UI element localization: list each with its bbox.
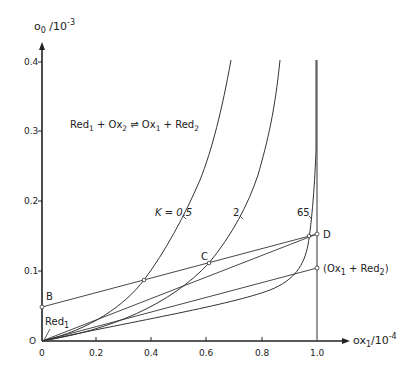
red1-label: Red1 xyxy=(45,316,69,330)
y-ticks: 0.1 0.2 0.3 0.4 O xyxy=(24,57,42,346)
reaction-equation: Red1 + Ox2 ⇌ Ox1 + Red2 xyxy=(70,119,199,133)
y-tick-label: 0.3 xyxy=(24,126,38,136)
curves xyxy=(42,60,316,341)
line-b-d xyxy=(42,234,317,307)
line-o-ox1red2 xyxy=(42,268,317,341)
point-ox1red2-label: (Ox1 + Red2) xyxy=(323,263,389,277)
y-tick-label: 0.1 xyxy=(24,266,38,276)
x-axis-title: ox1/10-4 xyxy=(353,332,397,349)
point-k05-marker xyxy=(142,278,146,282)
point-b-marker xyxy=(40,305,44,309)
point-d-marker xyxy=(315,232,319,236)
point-c-label: C xyxy=(201,251,208,262)
x-tick-label: 0.4 xyxy=(144,348,159,358)
origin-label: O xyxy=(29,336,36,346)
x-axis-arrow-icon xyxy=(342,338,350,344)
point-ox1red2-marker xyxy=(315,266,319,270)
y-axis-title: o0 /10-3 xyxy=(34,18,75,35)
point-b-label: B xyxy=(46,291,53,302)
x-tick-label: 0.6 xyxy=(199,348,214,358)
curve-label-k2: 2 xyxy=(233,207,239,218)
curve-k-2 xyxy=(42,60,280,341)
y-axis-arrow-icon xyxy=(39,42,45,50)
curve-k-0.5 xyxy=(42,60,231,341)
y-tick-label: 0.4 xyxy=(24,57,39,67)
x-tick-label: 1.0 xyxy=(310,348,325,358)
titration-diagram: 0.1 0.2 0.3 0.4 O 0 0.2 0.4 0.6 0.8 1.0 … xyxy=(0,0,410,373)
x-tick-label: 0 xyxy=(39,348,45,358)
curve-label-k65: 65 xyxy=(297,207,310,218)
point-d-label: D xyxy=(323,229,331,240)
point-k65-marker xyxy=(307,234,311,238)
x-tick-label: 0.2 xyxy=(89,348,103,358)
x-tick-label: 0.8 xyxy=(255,348,270,358)
curve-label-k05: K = 0.5 xyxy=(155,207,192,218)
y-tick-label: 0.2 xyxy=(24,196,38,206)
x-ticks: 0 0.2 0.4 0.6 0.8 1.0 xyxy=(39,337,325,358)
